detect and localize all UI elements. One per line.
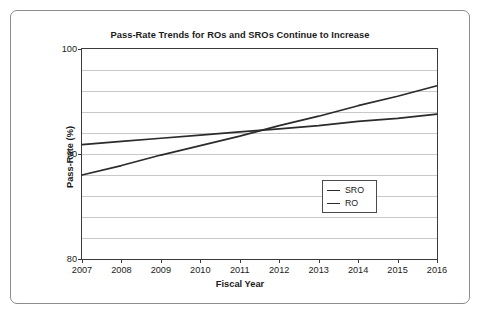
x-tick-label-2010: 2010 — [190, 265, 210, 275]
x-tick-label-2008: 2008 — [111, 265, 131, 275]
x-tick-label-2014: 2014 — [348, 265, 368, 275]
x-tick-label-2007: 2007 — [72, 265, 92, 275]
legend-line-icon-sro — [327, 190, 340, 191]
x-tick-label-2013: 2013 — [308, 265, 328, 275]
x-tick-mark-2014 — [358, 259, 359, 263]
y-tick-label-90: 90 — [67, 149, 77, 159]
y-tick-label-80: 80 — [67, 254, 77, 264]
legend-item-sro[interactable]: SRO — [327, 184, 372, 197]
x-tick-label-2016: 2016 — [427, 265, 447, 275]
plot-area: 1009080 20072008200920102011201220132014… — [81, 48, 438, 260]
x-tick-label-2015: 2015 — [387, 265, 407, 275]
x-tick-mark-2012 — [279, 259, 280, 263]
x-tick-mark-2015 — [398, 259, 399, 263]
x-tick-mark-2010 — [200, 259, 201, 263]
figure-frame: Pass-Rate Trends for ROs and SROs Contin… — [10, 10, 470, 304]
x-tick-mark-2011 — [240, 259, 241, 263]
x-tick-label-2012: 2012 — [269, 265, 289, 275]
x-tick-mark-2016 — [437, 259, 438, 263]
legend-label-sro: SRO — [345, 186, 364, 195]
x-axis-title: Fiscal Year — [11, 279, 469, 289]
x-tick-mark-2009 — [161, 259, 162, 263]
series-lines — [82, 49, 437, 259]
x-tick-label-2009: 2009 — [151, 265, 171, 275]
x-tick-mark-2007 — [82, 259, 83, 263]
x-tick-mark-2008 — [121, 259, 122, 263]
legend-item-ro[interactable]: RO — [327, 197, 372, 210]
y-tick-label-100: 100 — [62, 44, 77, 54]
legend-label-ro: RO — [345, 199, 358, 208]
series-line-ro — [82, 86, 437, 175]
x-tick-label-2011: 2011 — [230, 265, 250, 275]
legend-line-icon-ro — [327, 203, 340, 204]
series-line-sro — [82, 114, 437, 144]
x-tick-mark-2013 — [319, 259, 320, 263]
chart-legend[interactable]: SRO RO — [322, 180, 377, 213]
chart-title: Pass-Rate Trends for ROs and SROs Contin… — [11, 30, 469, 40]
